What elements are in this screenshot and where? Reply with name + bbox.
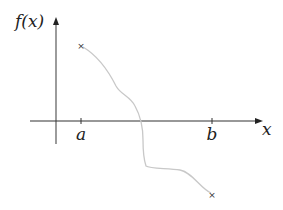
y-axis-label: f(x) [13,11,44,31]
tick-label-b: b [207,124,218,144]
function-curve [83,47,211,193]
x-axis [30,118,263,124]
end-marker-icon: × [208,190,216,200]
tick-label-a: a [76,124,86,144]
y-axis [53,17,59,144]
y-axis-arrow-icon [53,17,59,25]
function-diagram: × × f(x) x a b [0,0,283,210]
start-marker-icon: × [77,41,85,51]
x-axis-label: x [262,119,272,139]
